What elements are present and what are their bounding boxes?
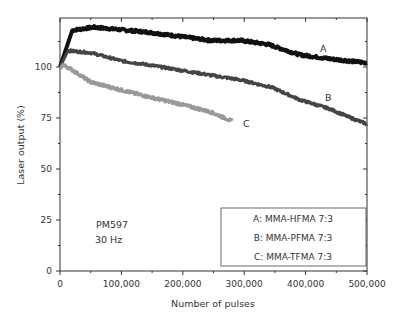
series-layer: [60, 26, 367, 125]
legend: A: MMA-HFMA 7:3 B: MMA-PFMA 7:3 C: MMA-T…: [221, 208, 366, 266]
x-tick-label-400000: 400,000: [287, 279, 324, 289]
curve-label-a: A: [320, 43, 327, 54]
y-tick-label-100: 100: [35, 62, 52, 72]
x-tick-label-0: 0: [57, 279, 63, 289]
y-axis-title: Laser output (%): [15, 105, 26, 185]
y-tick-label-75: 75: [41, 113, 52, 123]
rate-annotation: 30 Hz: [95, 234, 122, 245]
y-tick-label-0: 0: [46, 266, 52, 276]
legend-entry-c: C: MMA-TFMA 7:3: [254, 252, 332, 262]
x-tick-label-300000: 300,000: [226, 279, 263, 289]
chart-canvas: 0 25 50 75 100 0 100,000 200,000 300,000…: [0, 0, 401, 323]
legend-entry-a: A: MMA-HFMA 7:3: [253, 214, 333, 224]
x-tick-label-500000: 500,000: [348, 279, 385, 289]
y-tick-label-25: 25: [41, 215, 52, 225]
legend-entry-b: B: MMA-PFMA 7:3: [254, 233, 333, 243]
y-tick-label-50: 50: [41, 164, 53, 174]
sample-annotation: PM597: [96, 219, 128, 230]
curve-label-c: C: [243, 118, 250, 129]
x-tick-label-200000: 200,000: [164, 279, 201, 289]
curve-label-b: B: [325, 92, 332, 103]
x-tick-label-100000: 100,000: [103, 279, 140, 289]
x-axis-title: Number of pulses: [171, 298, 255, 309]
